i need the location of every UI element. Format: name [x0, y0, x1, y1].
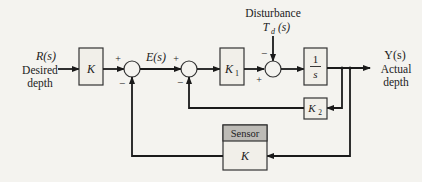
- sum2-minus-sign: −: [177, 76, 183, 88]
- prefilter-block: K: [79, 48, 103, 85]
- integrator-numerator: 1: [313, 53, 319, 65]
- sensor-block: Sensor K: [223, 125, 267, 170]
- input-desc-line2: depth: [27, 77, 53, 90]
- sum2-plus-sign: +: [173, 53, 179, 64]
- sensor-feedback-out-arrow: [132, 77, 223, 156]
- summing-junction-1: + −: [115, 53, 140, 89]
- disturbance-signal-arg: (s): [278, 21, 290, 34]
- k2-label: K: [307, 102, 316, 114]
- disturbance-title: Disturbance: [245, 7, 301, 19]
- k2-feedback-out-arrow: [189, 77, 304, 108]
- input-desc-line1: Desired: [22, 64, 58, 76]
- k2-subscript: 2: [318, 108, 322, 117]
- k1-subscript: 1: [235, 69, 239, 78]
- k1-block: K 1: [220, 48, 244, 85]
- prefilter-label: K: [86, 62, 96, 76]
- k1-label: K: [224, 62, 234, 76]
- sum3-plus-sign: +: [256, 74, 262, 85]
- sum3-minus-sign: −: [261, 47, 267, 59]
- sum1-plus-sign: +: [115, 53, 121, 64]
- output-signal-label: Y(s): [384, 48, 405, 62]
- sensor-gain-label: K: [240, 149, 250, 163]
- block-diagram: R(s) Desired depth K + − E(s) + − K 1 Di…: [0, 0, 422, 182]
- summing-junction-2: + −: [173, 53, 197, 88]
- k2-feedback-in-arrow: [327, 68, 342, 108]
- disturbance-signal-label: T d (s): [263, 21, 290, 36]
- integrator-denominator: s: [313, 68, 317, 80]
- sensor-header-label: Sensor: [231, 128, 260, 139]
- input-signal-label: R(s): [35, 49, 56, 63]
- sum1-minus-sign: −: [119, 77, 125, 89]
- output-desc-line2: depth: [383, 76, 409, 89]
- integrator-block: 1 s: [304, 48, 327, 85]
- disturbance-signal-sub: d: [271, 27, 276, 36]
- error-signal-label: E(s): [145, 50, 166, 64]
- k2-block: K 2: [304, 98, 327, 119]
- summing-junction-3: − +: [256, 47, 281, 85]
- disturbance-signal-main: T: [263, 21, 271, 33]
- output-desc-line1: Actual: [381, 63, 412, 75]
